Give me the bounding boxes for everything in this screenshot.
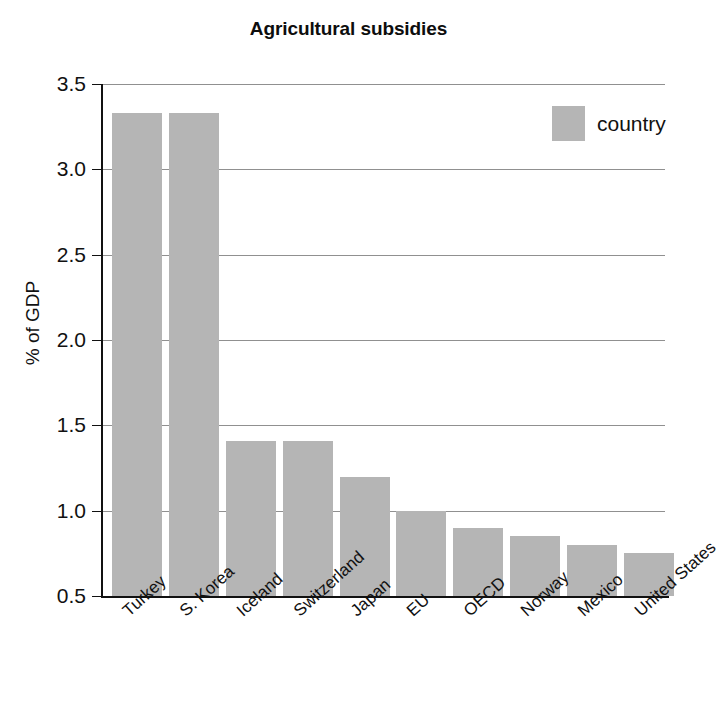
y-tick-mark bbox=[92, 425, 101, 426]
y-tick-mark bbox=[92, 596, 101, 597]
grid-line bbox=[101, 84, 665, 85]
bar bbox=[112, 113, 162, 596]
y-tick-label: 3.0 bbox=[40, 158, 86, 179]
legend-swatch-country bbox=[552, 106, 585, 141]
y-tick-mark bbox=[92, 169, 101, 170]
y-tick-mark bbox=[92, 84, 101, 85]
bar bbox=[396, 511, 446, 596]
y-tick-label: 2.5 bbox=[40, 244, 86, 265]
legend-label-country: country bbox=[597, 113, 666, 134]
chart-legend: country bbox=[552, 106, 666, 141]
y-tick-mark bbox=[92, 255, 101, 256]
y-tick-label: 2.0 bbox=[40, 329, 86, 350]
y-tick-label: 3.5 bbox=[40, 73, 86, 94]
y-tick-mark bbox=[92, 511, 101, 512]
y-axis-title: % of GDP bbox=[22, 268, 44, 378]
y-axis-line bbox=[101, 84, 103, 598]
y-tick-label: 1.5 bbox=[40, 414, 86, 435]
bar bbox=[169, 113, 219, 596]
chart-title: Agricultural subsidies bbox=[0, 18, 697, 40]
y-tick-label: 0.5 bbox=[40, 585, 86, 606]
y-tick-mark bbox=[92, 340, 101, 341]
y-tick-label: 1.0 bbox=[40, 500, 86, 521]
